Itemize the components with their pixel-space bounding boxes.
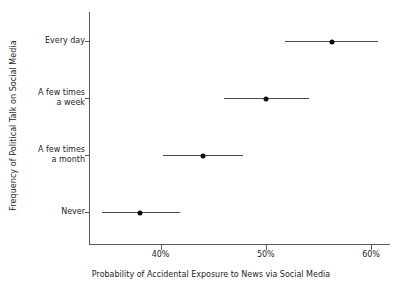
x-axis-title: Probability of Accidental Exposure to Ne…: [26, 270, 396, 279]
y-tick-line: A few times: [38, 145, 85, 155]
x-axis-spine: [89, 244, 390, 245]
y-tick-line: Never: [61, 207, 85, 217]
y-axis-tick-1: [85, 98, 90, 99]
y-axis-title-text: Frequency of Political Talk on Social Me…: [9, 40, 18, 210]
y-tick-line: a month: [38, 155, 85, 165]
data-point: [263, 96, 268, 101]
y-axis-tick-labels: Every day A few times a week A few times…: [24, 0, 85, 260]
y-axis-tick-0: [85, 41, 90, 42]
data-point: [137, 210, 142, 215]
x-tick-label-60pct: 60%: [362, 250, 380, 259]
y-axis-spine: [89, 12, 90, 245]
y-axis-tick-3: [85, 212, 90, 213]
y-tick-label-every-day: Every day: [45, 36, 85, 46]
y-tick-label-a-few-times-a-month: A few times a month: [38, 145, 85, 165]
data-point: [330, 39, 335, 44]
y-axis-tick-2: [85, 155, 90, 156]
y-axis-title: Frequency of Political Talk on Social Me…: [0, 0, 26, 250]
y-tick-label-a-few-times-a-week: A few times a week: [38, 88, 85, 108]
chart-figure: Frequency of Political Talk on Social Me…: [0, 0, 411, 293]
data-point: [200, 153, 205, 158]
x-tick-label-40pct: 40%: [152, 250, 170, 259]
y-tick-line: A few times: [38, 88, 85, 98]
y-tick-label-never: Never: [61, 207, 85, 217]
y-tick-line: Every day: [45, 36, 85, 46]
plot-area: [89, 12, 390, 245]
x-tick-label-50pct: 50%: [257, 250, 275, 259]
y-tick-line: a week: [38, 98, 85, 108]
